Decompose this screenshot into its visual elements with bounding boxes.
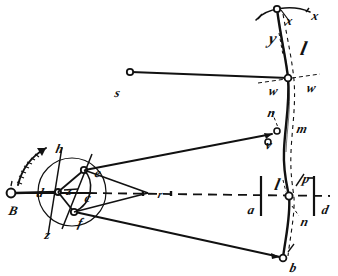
w-guide-right — [292, 74, 320, 78]
upper-horizontal-bar — [131, 72, 288, 78]
top-arc — [256, 8, 310, 20]
upper-connecting-rod — [85, 134, 272, 170]
joint-a-d-center — [285, 192, 292, 199]
mechanical-linkage-figure — [0, 0, 338, 276]
joint-n — [274, 128, 280, 134]
lower-connecting-rod — [75, 212, 280, 257]
joint-s-end — [127, 69, 133, 75]
center-axis-dashed — [88, 193, 330, 196]
joint-top-x — [274, 6, 280, 12]
joint-B-left — [7, 189, 16, 198]
joint-w-cross — [285, 75, 292, 82]
joint-bottom-b — [280, 255, 287, 262]
B-stem — [11, 181, 12, 186]
